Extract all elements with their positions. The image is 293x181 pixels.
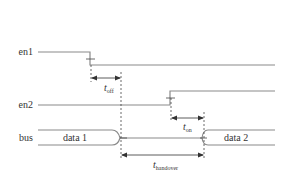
timing-diagram: en1 en2 bus data 1 data 2 toff to xyxy=(0,0,293,181)
signal-label-en1: en1 xyxy=(19,46,33,57)
bus-segment-data1: data 1 xyxy=(63,132,87,143)
en2-waveform xyxy=(38,91,275,105)
reference-lines xyxy=(91,65,204,160)
t-handover-label: thandover xyxy=(153,159,178,171)
en1-waveform xyxy=(38,52,275,65)
t-off-label: toff xyxy=(104,82,114,94)
bus-segment-data2: data 2 xyxy=(224,132,248,143)
signal-label-bus: bus xyxy=(19,132,33,143)
signal-label-en2: en2 xyxy=(19,99,33,110)
t-on-dimension: ton xyxy=(172,118,203,133)
t-on-label: ton xyxy=(183,121,192,133)
t-handover-dimension: thandover xyxy=(122,155,203,171)
t-off-dimension: toff xyxy=(92,78,120,94)
